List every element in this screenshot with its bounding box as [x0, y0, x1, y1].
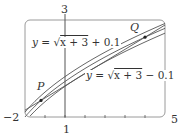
- lower-label-suffix: − 0.1: [142, 69, 174, 81]
- lower-label-prefix: y =: [86, 69, 107, 81]
- point-q: [143, 36, 146, 39]
- point-q-label: Q: [130, 22, 139, 33]
- x-right-label: 5: [171, 114, 178, 125]
- x-left-label: −2: [3, 112, 19, 123]
- point-p: [39, 99, 42, 102]
- point-p-label: P: [37, 81, 44, 92]
- lower-curve-label: y = √x + 3 − 0.1: [85, 70, 175, 81]
- y-top-label: 3: [61, 4, 68, 15]
- lower-label-radicand: x + 3: [114, 69, 142, 81]
- upper-label-suffix: + 0.1: [88, 36, 120, 48]
- upper-label-prefix: y =: [32, 36, 53, 48]
- x-axis-marker-label: 1: [63, 124, 70, 135]
- upper-curve-label: y = √x + 3 + 0.1: [31, 37, 121, 48]
- upper-label-radicand: x + 3: [60, 36, 88, 48]
